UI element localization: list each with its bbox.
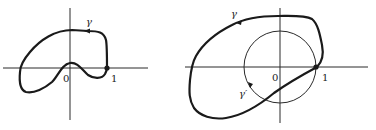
left-figure: γ 0 1 xyxy=(3,8,148,120)
left-point-one xyxy=(104,65,109,70)
right-origin-label: 0 xyxy=(272,72,278,83)
diagram-canvas: γ 0 1 γ γ′ 0 1 xyxy=(0,0,376,130)
right-figure: γ γ′ 0 1 xyxy=(185,8,368,123)
right-point-one xyxy=(313,64,318,69)
right-unit-label: 1 xyxy=(322,72,328,83)
left-direction-arrow-icon xyxy=(84,29,90,34)
left-origin-label: 0 xyxy=(63,73,69,84)
left-gamma-label: γ xyxy=(86,16,92,27)
right-gamma-label: γ xyxy=(231,8,237,19)
left-unit-label: 1 xyxy=(111,73,117,84)
right-gamma-prime-label: γ′ xyxy=(239,88,248,99)
